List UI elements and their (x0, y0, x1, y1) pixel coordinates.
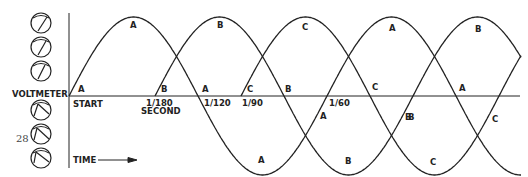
phase-label-c: C (492, 114, 498, 124)
tick-sublabel-second: SECOND (141, 106, 181, 116)
voltmeter-label: VOLTMETER (12, 89, 68, 99)
phase-label-c: C (302, 22, 308, 32)
voltmeter-dial-icon (31, 148, 51, 168)
phase-label-c: C (430, 157, 436, 167)
voltmeter-dial-icon (31, 100, 51, 120)
voltmeter-dial-icon (31, 124, 51, 144)
phase-label-a: A (258, 155, 265, 165)
time-label: TIME (73, 155, 96, 165)
voltmeter-dial-icon (31, 61, 51, 81)
phase-label-b: B (345, 156, 351, 166)
voltmeter-dial-icon (31, 13, 51, 33)
phase-label-a: A (130, 20, 137, 30)
tick-label-1-90: 1/90 (242, 98, 263, 108)
phase-label-b: B (217, 20, 223, 30)
phase-label-b: B (475, 24, 481, 34)
phase-label-b: B (285, 84, 291, 94)
tick-label-1-60: 1/60 (329, 98, 350, 108)
start-label: START (73, 99, 103, 109)
phase-label-a: A (459, 83, 466, 93)
phase-label-c: C (247, 84, 253, 94)
three-phase-waveform-diagram: VOLTMETER 28 TIME START 1/180 SECOND 1/1… (0, 0, 528, 177)
page-number: 28 (16, 133, 29, 144)
phase-label-a: A (320, 111, 327, 121)
phase-label-a: A (78, 84, 85, 94)
axes (69, 13, 520, 168)
time-arrow-icon (98, 158, 137, 163)
phase-labels: A B C A B A B C A B A C B A C B A B C (78, 20, 498, 167)
phase-label-a: A (202, 84, 209, 94)
phase-label-a: A (389, 23, 396, 33)
voltmeter-dial-icon (31, 37, 51, 57)
tick-label-1-120: 1/120 (204, 98, 231, 108)
phase-label-b: B (161, 84, 167, 94)
phase-label-b: B (405, 112, 411, 122)
phase-label-c: C (372, 82, 378, 92)
